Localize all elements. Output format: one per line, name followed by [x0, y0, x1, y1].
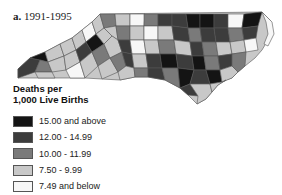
- legend-swatch: [13, 181, 33, 192]
- legend-item-15-plus: 15.00 and above: [13, 113, 106, 129]
- legend-title: Deaths per 1,000 Live Births: [13, 83, 89, 105]
- legend-item-7.5-10: 7.50 - 9.99: [13, 162, 106, 178]
- legend-label: 15.00 and above: [39, 116, 106, 126]
- legend-label: 7.49 and below: [39, 181, 100, 191]
- legend-swatch: [13, 165, 33, 176]
- legend: 15.00 and above 12.00 - 14.99 10.00 - 11…: [13, 113, 106, 194]
- legend-item-12-15: 12.00 - 14.99: [13, 129, 106, 145]
- legend-item-10-12: 10.00 - 11.99: [13, 146, 106, 162]
- legend-label: 10.00 - 11.99: [39, 149, 91, 159]
- legend-swatch: [13, 132, 33, 143]
- legend-title-line2: 1,000 Live Births: [13, 94, 89, 105]
- legend-label: 12.00 - 14.99: [39, 132, 92, 142]
- legend-title-line1: Deaths per: [13, 83, 89, 94]
- legend-label: 7.50 - 9.99: [39, 165, 82, 175]
- legend-swatch: [13, 148, 33, 159]
- legend-item-below-7.5: 7.49 and below: [13, 178, 106, 194]
- legend-swatch: [13, 116, 33, 127]
